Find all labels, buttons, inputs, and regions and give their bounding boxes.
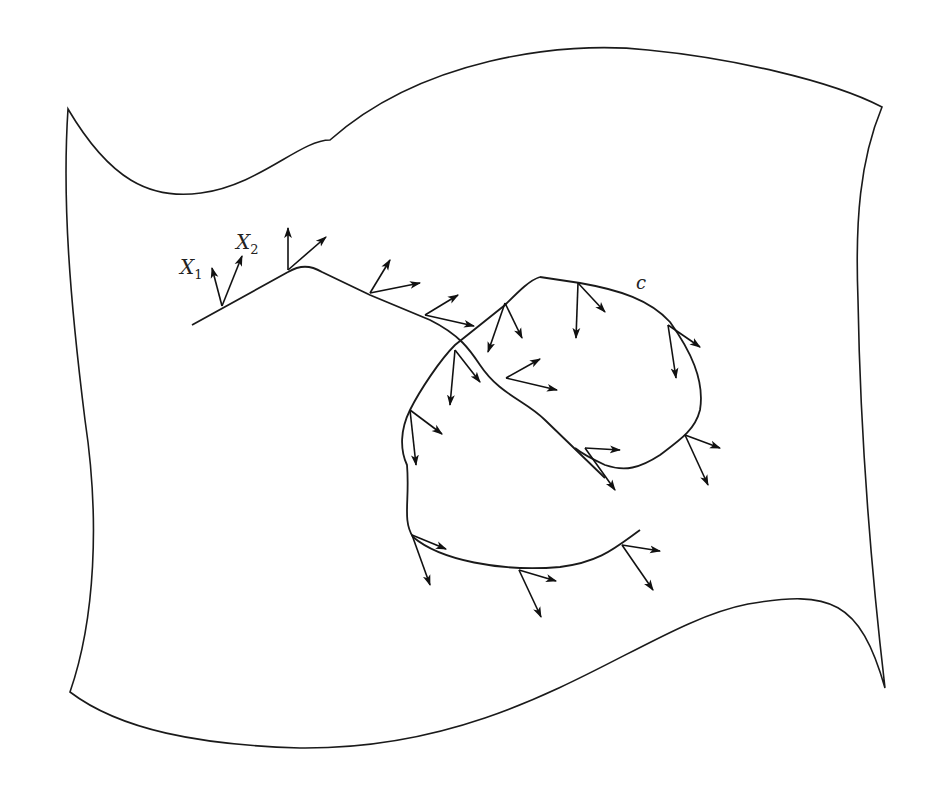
label-x2: X2 [234, 230, 259, 257]
open-curve [192, 267, 605, 478]
surface-diagram: X1 X2 c [0, 0, 936, 785]
surface-outline [66, 48, 885, 748]
label-x1: X1 [178, 255, 203, 282]
label-curve-c: c [636, 272, 646, 293]
